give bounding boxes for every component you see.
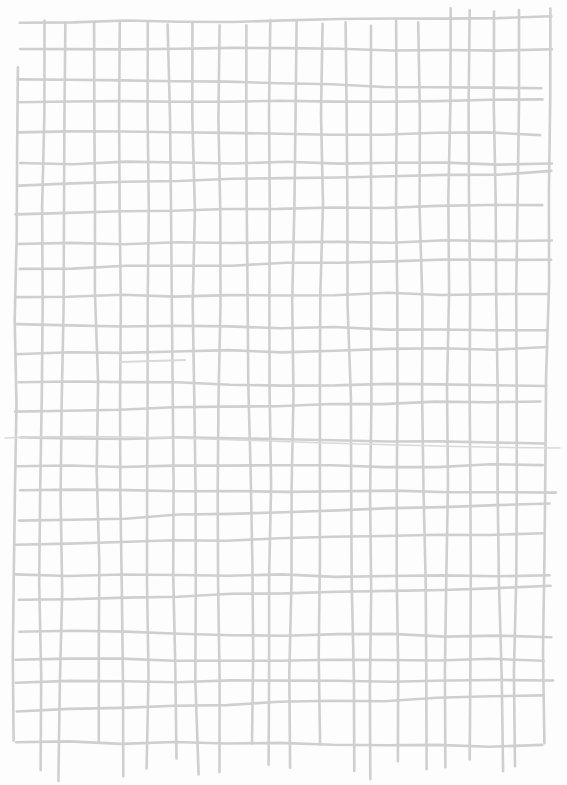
grid-horizontal-line xyxy=(18,99,543,102)
grid-horizontal-line xyxy=(20,16,552,23)
grid-vertical-line xyxy=(514,10,519,766)
grid-horizontal-line xyxy=(16,680,553,683)
grid-horizontal-line xyxy=(16,533,543,545)
grid-horizontal-line xyxy=(20,162,552,165)
grid-horizontal-line xyxy=(15,402,540,412)
grid-vertical-line xyxy=(370,26,372,780)
grid-vertical-line xyxy=(168,25,177,759)
grid-horizontal-line xyxy=(20,490,556,493)
grid-horizontal-line xyxy=(21,437,545,443)
grid-vertical-line xyxy=(543,9,550,744)
grid-horizontal-line xyxy=(18,131,540,135)
grid-horizontal-line xyxy=(16,464,542,467)
grid-horizontal-line xyxy=(16,741,542,746)
grid-vertical-line xyxy=(289,21,296,768)
grid-vertical-line xyxy=(445,8,451,767)
grid-vertical-line xyxy=(58,23,65,781)
grid-vertical-line xyxy=(13,67,18,740)
grid-horizontal-line xyxy=(19,171,551,186)
grid-horizontal-line xyxy=(18,79,542,88)
grid-vertical-line xyxy=(319,24,323,745)
grid-vertical-line xyxy=(396,21,398,762)
faint-streak-line xyxy=(120,360,185,362)
grid-horizontal-line xyxy=(16,347,548,354)
grid-vertical-line xyxy=(269,20,272,764)
grid-horizontal-line xyxy=(17,240,552,244)
grid-horizontal-line xyxy=(17,695,542,711)
grid-horizontal-line xyxy=(20,260,551,269)
grid-vertical-line xyxy=(494,12,503,772)
grid-vertical-line xyxy=(147,22,149,769)
grid-horizontal-line xyxy=(16,574,550,577)
grid-horizontal-line xyxy=(20,48,552,51)
grid-paper: Hand-drawn grey grid on a white sheet of… xyxy=(0,0,567,785)
grid-horizontal-line xyxy=(16,659,544,661)
grid-vertical-line xyxy=(119,22,123,776)
hand-drawn-grid xyxy=(0,0,567,785)
